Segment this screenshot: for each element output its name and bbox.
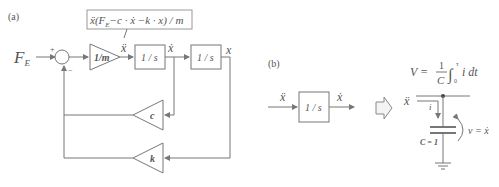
equation-pointer (124, 29, 127, 38)
voltage-equation-lower: 0 (454, 78, 457, 84)
voltage-equation-den: C (437, 74, 445, 86)
capacitance-label: C = 1 (420, 138, 438, 147)
pos-signal-label: x (225, 43, 232, 57)
current-source-label: ẍ (403, 94, 410, 108)
panel-b-label: (b) (268, 58, 280, 70)
voltage-label: v = ẋ (468, 125, 489, 136)
sum-minus-sign: − (68, 66, 73, 75)
equivalence-arrow-icon (376, 97, 392, 119)
voltage-equation-num: 1 (439, 60, 444, 71)
voltage-equation-integral: ∫ (447, 66, 454, 85)
summing-junction (55, 50, 69, 64)
integrator-1-label: 1 / s (141, 52, 158, 63)
input-force-label: FE (13, 48, 30, 68)
b-integrator-label: 1 / s (305, 102, 322, 113)
position-feedback-line (165, 57, 230, 158)
velocity-feedback-line (165, 57, 174, 115)
sum-plus-sign: + (50, 45, 55, 54)
gain-c-label: c (150, 110, 155, 121)
gain-1-over-m-label: 1/m (94, 52, 110, 63)
voltage-equation-body: i dt (462, 65, 478, 79)
gain-k-label: k (150, 153, 155, 164)
accel-signal-label: ẍ (120, 41, 127, 55)
voltage-arc (458, 119, 463, 141)
vel-signal-label: ẋ (167, 41, 174, 55)
current-label: i (429, 102, 432, 112)
gain-k (133, 143, 163, 173)
voltage-equation-lhs: V = (410, 65, 428, 79)
current-arrow (417, 101, 438, 118)
diagram-canvas: (a) ẍ(FE−c · ẋ −k · x) / m FE + − 1/m ẍ … (0, 0, 499, 187)
gain-c (133, 100, 163, 130)
b-output-label: ẋ (336, 90, 343, 104)
voltage-equation-upper: τ (456, 60, 459, 68)
k-to-sum-line (64, 66, 133, 158)
panel-a-label: (a) (8, 11, 19, 23)
integrator-2-label: 1 / s (197, 52, 214, 63)
b-input-label: ẍ (279, 90, 286, 104)
